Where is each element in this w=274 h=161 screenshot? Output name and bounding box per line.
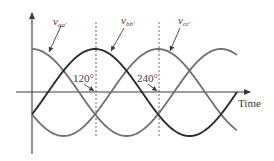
- pointer-arrow-120: [84, 84, 94, 91]
- label-vaa: vaa': [53, 15, 67, 29]
- label-vbb: vbb': [121, 14, 135, 28]
- pointer-arrow-vcc: [170, 28, 180, 51]
- pointer-arrow-240: [148, 84, 157, 91]
- marker-120-label: 120°: [73, 72, 94, 84]
- marker-240-label: 240°: [137, 72, 158, 84]
- three-phase-waveform-diagram: vaa' vbb' vcc' 120° 240° Time: [0, 0, 274, 161]
- time-axis-label: Time: [238, 97, 261, 109]
- pointer-arrow-vbb: [111, 28, 124, 51]
- pointer-arrow-vaa: [49, 26, 61, 52]
- diagram-canvas: vaa' vbb' vcc' 120° 240° Time: [0, 0, 274, 161]
- label-vcc: vcc': [178, 14, 191, 28]
